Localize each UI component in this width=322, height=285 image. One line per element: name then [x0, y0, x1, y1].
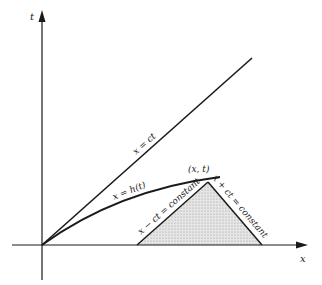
- point-label: (x, t): [188, 164, 210, 174]
- light-line-label: x = ct: [131, 131, 158, 157]
- x-axis-label: x: [300, 253, 306, 264]
- t-axis-arrow-icon: [39, 10, 46, 22]
- t-axis-label: t: [30, 11, 35, 22]
- characteristics-diagram: t x x = ct x = h(t) (x, t) x − ct = cons…: [0, 0, 322, 285]
- x-axis-arrow-icon: [296, 242, 308, 249]
